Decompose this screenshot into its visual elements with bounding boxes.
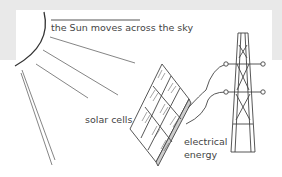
- sun-rays: [21, 37, 135, 165]
- electrical-energy-label: electrical energy: [184, 135, 234, 161]
- cables: [186, 64, 226, 124]
- sun-label: the Sun moves across the sky: [51, 21, 193, 34]
- solar-cells-label: solar cells: [85, 113, 132, 126]
- sun-icon: [15, 12, 45, 66]
- solar-panel: [130, 64, 191, 166]
